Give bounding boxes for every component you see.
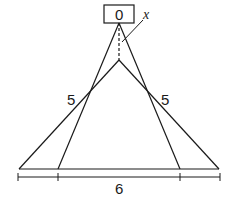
wide-triangle-right-side [119, 60, 219, 169]
diagram-svg [0, 0, 236, 201]
narrow-triangle-right-side [119, 23, 180, 169]
base-label: 6 [115, 181, 123, 196]
diagram-canvas: 0 x 5 5 6 [0, 0, 236, 201]
right-side-label: 5 [161, 92, 169, 107]
x-label: x [143, 8, 149, 22]
wide-triangle-left-side [19, 60, 119, 169]
box-label: 0 [115, 7, 123, 22]
left-side-label: 5 [67, 92, 75, 107]
